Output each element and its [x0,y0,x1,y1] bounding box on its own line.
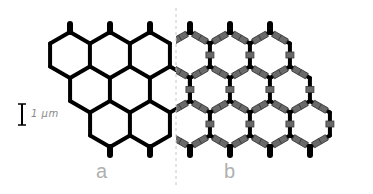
lattice-diagram [0,0,373,194]
scale-bar-label: 1 μm [31,108,59,119]
panel-label-b: b [224,160,235,183]
scale-bar-icon [18,104,26,125]
panel-b-lattice [146,24,334,155]
panel-label-a: a [96,160,107,183]
panel-a-lattice [50,24,190,155]
lattice-figure: 1 μm a b [0,0,373,194]
